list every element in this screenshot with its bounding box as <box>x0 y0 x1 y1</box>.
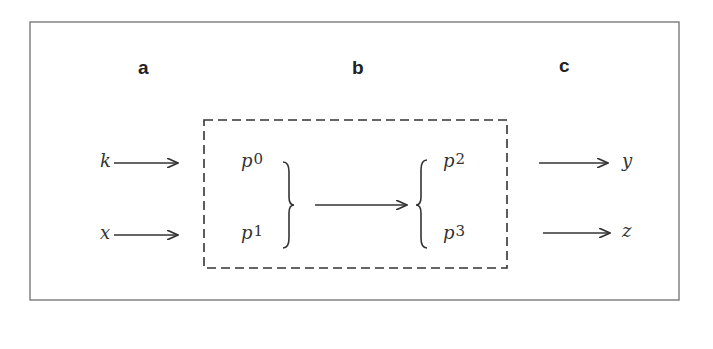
output-z: z <box>622 220 631 241</box>
node-p3-symbol: p <box>443 222 455 243</box>
node-p2: p2 <box>443 150 465 171</box>
node-p3: p3 <box>443 222 465 243</box>
diagram-lines <box>0 0 713 349</box>
column-label-a: a <box>138 57 149 79</box>
node-p1: p1 <box>241 222 263 243</box>
node-p1-subscript: 1 <box>254 222 264 240</box>
dashed-box <box>204 120 507 268</box>
node-p3-subscript: 3 <box>456 222 466 240</box>
node-p2-symbol: p <box>443 150 455 171</box>
node-p1-symbol: p <box>241 222 253 243</box>
input-x: x <box>100 222 110 243</box>
node-p0-subscript: 0 <box>254 150 264 168</box>
output-y: y <box>622 150 632 171</box>
diagram-canvas: a b c k x p0 p1 p2 p3 y z <box>0 0 713 349</box>
node-p0-symbol: p <box>241 150 253 171</box>
opening-brace <box>416 160 427 248</box>
column-label-c: c <box>559 55 570 77</box>
input-k: k <box>100 150 111 171</box>
node-p2-subscript: 2 <box>456 150 466 168</box>
closing-brace <box>283 162 294 248</box>
column-label-b: b <box>352 57 364 79</box>
node-p0: p0 <box>241 150 263 171</box>
